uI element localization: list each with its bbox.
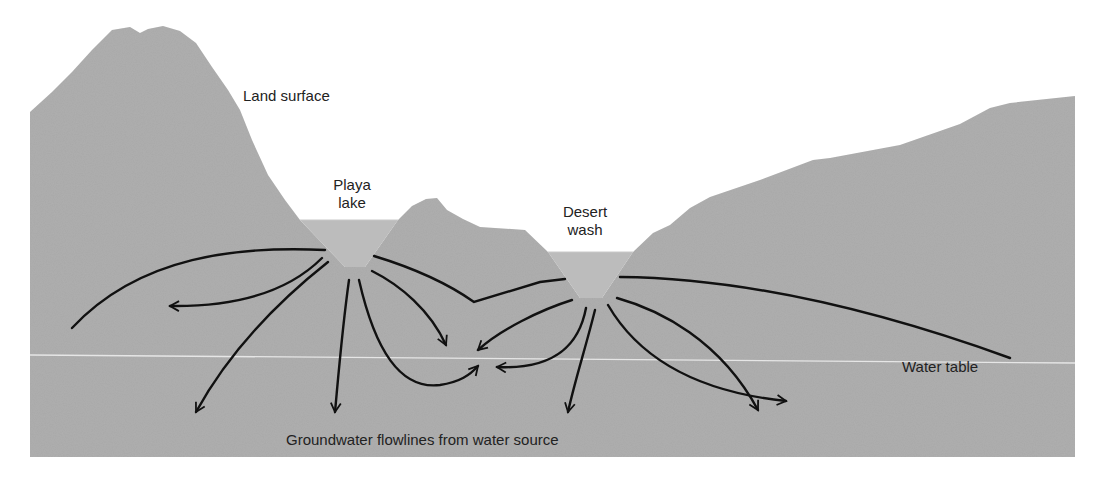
desert-wash-label-line1: Desert (552, 203, 618, 221)
ground-terrain (30, 26, 1075, 457)
desert-wash-label: Desert wash (552, 203, 618, 239)
water-table-label: Water table (902, 358, 978, 376)
playa-lake-label-line2: lake (322, 194, 382, 212)
land-surface-label: Land surface (243, 87, 330, 105)
desert-wash-label-line2: wash (552, 221, 618, 239)
playa-lake-label-line1: Playa (322, 176, 382, 194)
groundwater-cross-section (0, 0, 1099, 482)
flowlines-caption: Groundwater flowlines from water source (286, 431, 559, 449)
playa-lake-label: Playa lake (322, 176, 382, 212)
